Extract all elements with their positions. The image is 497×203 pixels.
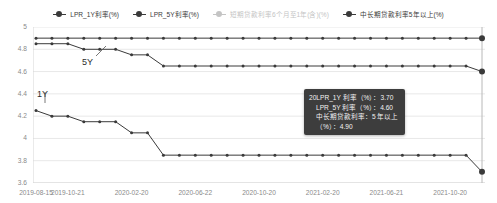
- series-point: [162, 65, 165, 68]
- series-point: [353, 37, 356, 40]
- series-point: [321, 37, 324, 40]
- series-point: [353, 154, 356, 157]
- chart-legend: LPR_1Y利率(%)LPR_5Y利率(%)短期贷款利率6个月至1年(含)(%)…: [0, 9, 497, 19]
- annotation-5y: 5Y: [82, 57, 93, 67]
- series-point: [258, 154, 261, 157]
- annotation-1y: 1Y: [37, 89, 48, 99]
- series-point: [337, 65, 340, 68]
- series-point: [130, 131, 133, 134]
- series-point: [273, 65, 276, 68]
- tooltip-line: 中长期贷款利率：5 年以上: [309, 112, 399, 122]
- series-point: [258, 37, 261, 40]
- x-axis-tick-label: 2020-10-20: [242, 189, 276, 196]
- x-axis-tick-label: 2019-10-21: [51, 189, 85, 196]
- series-point: [226, 154, 229, 157]
- tooltip-line: LPR_5Y 利率（%）：4.60: [309, 103, 399, 113]
- x-axis-tick-label: 2019-08-15: [19, 189, 53, 196]
- series-point: [130, 37, 133, 40]
- series-point: [162, 154, 165, 157]
- series-point: [178, 65, 181, 68]
- series-point: [146, 53, 149, 56]
- series-point: [194, 37, 197, 40]
- series-point: [114, 48, 117, 51]
- series-point: [273, 154, 276, 157]
- series-point-highlight: [479, 35, 485, 41]
- series-point: [82, 48, 85, 51]
- legend-item-label: 中长期贷款利率5年以上(%): [360, 9, 444, 19]
- series-point: [98, 37, 101, 40]
- series-point: [50, 115, 53, 118]
- series-point: [258, 65, 261, 68]
- x-axis-tick-label: 2020-02-20: [115, 189, 149, 196]
- series-point: [66, 37, 69, 40]
- legend-item-2[interactable]: 短期贷款利率6个月至1年(含)(%): [213, 9, 329, 19]
- series-point: [210, 154, 213, 157]
- series-point: [433, 65, 436, 68]
- series-point: [401, 37, 404, 40]
- series-point: [305, 154, 308, 157]
- series-point: [146, 37, 149, 40]
- legend-item-3[interactable]: 中长期贷款利率5年以上(%): [343, 9, 444, 19]
- chart-svg: [33, 27, 485, 183]
- series-point: [66, 42, 69, 45]
- series-point: [50, 42, 53, 45]
- series-point-highlight: [479, 169, 485, 175]
- y-axis-tick-label: 3.6: [3, 179, 27, 186]
- series-point: [385, 37, 388, 40]
- legend-dot-icon: [53, 11, 66, 17]
- y-axis-tick-label: 4.2: [3, 112, 27, 119]
- plot-area: [33, 27, 485, 183]
- series-point: [194, 154, 197, 157]
- chart-container: LPR_1Y利率(%)LPR_5Y利率(%)短期贷款利率6个月至1年(含)(%)…: [0, 0, 497, 203]
- series-point: [465, 154, 468, 157]
- series-point-highlight: [479, 69, 485, 75]
- legend-item-label: 短期贷款利率6个月至1年(含)(%): [230, 9, 329, 19]
- series-point: [401, 65, 404, 68]
- series-point: [146, 131, 149, 134]
- series-point: [369, 37, 372, 40]
- x-axis-tick-label: 2020-06-22: [178, 189, 212, 196]
- series-point: [35, 109, 38, 112]
- series-point: [353, 65, 356, 68]
- series-point: [289, 37, 292, 40]
- y-axis-tick-label: 4.8: [3, 45, 27, 52]
- series-point: [449, 65, 452, 68]
- series-point: [305, 37, 308, 40]
- series-point: [50, 37, 53, 40]
- series-point: [417, 154, 420, 157]
- series-point: [273, 37, 276, 40]
- x-axis-tick-label: 2021-06-21: [370, 189, 404, 196]
- legend-dot-icon: [133, 11, 146, 17]
- series-point: [417, 37, 420, 40]
- series-point: [401, 154, 404, 157]
- chart-tooltip: 20LPR_1Y 利率（%）：3.70LPR_5Y 利率（%）：4.60中长期贷…: [304, 89, 405, 135]
- series-point: [114, 37, 117, 40]
- series-point: [98, 120, 101, 123]
- y-axis-tick-label: 4: [3, 134, 27, 141]
- series-point: [98, 48, 101, 51]
- series-point: [226, 65, 229, 68]
- x-axis-tick-label: 2021-10-20: [433, 189, 467, 196]
- series-point: [465, 37, 468, 40]
- series-point: [337, 37, 340, 40]
- series-point: [449, 154, 452, 157]
- legend-item-1[interactable]: LPR_5Y利率(%): [133, 9, 199, 19]
- series-point: [226, 37, 229, 40]
- series-point: [417, 65, 420, 68]
- legend-dot-icon: [343, 11, 356, 17]
- y-axis-tick-label: 3.8: [3, 157, 27, 164]
- series-point: [242, 154, 245, 157]
- series-point: [210, 65, 213, 68]
- series-point: [242, 37, 245, 40]
- series-point: [385, 65, 388, 68]
- series-point: [289, 154, 292, 157]
- legend-item-0[interactable]: LPR_1Y利率(%): [53, 9, 119, 19]
- series-point: [178, 37, 181, 40]
- series-point: [242, 65, 245, 68]
- y-axis-tick-label: 4.4: [3, 90, 27, 97]
- series-point: [162, 37, 165, 40]
- series-point: [433, 37, 436, 40]
- series-point: [210, 37, 213, 40]
- legend-item-label: LPR_1Y利率(%): [70, 9, 119, 19]
- series-point: [321, 65, 324, 68]
